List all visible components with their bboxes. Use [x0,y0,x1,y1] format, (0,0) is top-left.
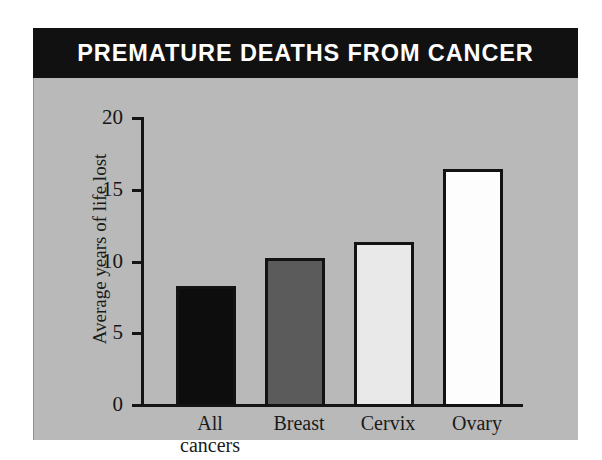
plot-area: Average years of life lost 20 15 10 5 0 … [33,78,578,440]
y-tick-mark-15 [132,189,142,192]
y-tick-mark-20 [132,117,142,120]
bar-breast [265,258,325,407]
y-tick-label-5: 5 [77,322,123,343]
x-tick-label-ovary: Ovary [428,412,526,434]
x-tick-label-breast: Breast [250,412,348,434]
bar-ovary [443,169,503,407]
bar-cervix [354,242,414,407]
y-tick-label-15: 15 [77,179,123,200]
chart-title-banner: PREMATURE DEATHS FROM CANCER [33,28,578,78]
y-tick-mark-5 [132,332,142,335]
x-tick-label-cervix: Cervix [339,412,437,434]
y-tick-label-20: 20 [77,107,123,128]
y-tick-mark-0 [132,404,142,407]
x-tick-label-line-1: All [161,412,259,434]
y-tick-label-10: 10 [77,251,123,272]
x-tick-label-all-cancers: All cancers [161,412,259,457]
bar-all-cancers [176,286,236,407]
page-title: PREMATURE DEATHS FROM CANCER [77,40,533,67]
y-tick-label-0: 0 [77,394,123,415]
y-tick-mark-10 [132,261,142,264]
x-tick-label-line-2: cancers [161,434,259,456]
chart-figure: PREMATURE DEATHS FROM CANCER Average yea… [33,28,578,440]
